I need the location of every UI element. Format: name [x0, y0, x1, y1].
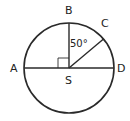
label-s: S — [65, 74, 72, 87]
label-a: A — [10, 62, 18, 75]
label-d: D — [117, 62, 125, 75]
label-b: B — [65, 4, 73, 17]
angle-label-bsc: 50° — [70, 38, 88, 49]
circle-diagram: B C A D S 50° — [0, 0, 130, 121]
right-angle-marker — [58, 58, 69, 68]
label-c: C — [101, 17, 109, 30]
